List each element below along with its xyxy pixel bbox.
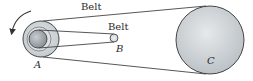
pulley-b-label: B xyxy=(116,44,123,54)
inner-belt-label: Belt xyxy=(108,22,128,32)
outer-belt-label: Belt xyxy=(81,2,101,12)
pulley-c-label: C xyxy=(207,56,215,66)
pulley-b xyxy=(110,34,118,42)
pulley-a xyxy=(23,21,59,57)
belt-drive-diagram: Belt Belt A B C xyxy=(0,0,253,81)
pulley-a-label: A xyxy=(34,60,41,70)
